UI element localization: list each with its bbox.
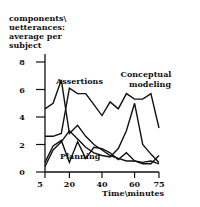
x-tick-label: 5 xyxy=(37,179,43,189)
y-tick-label: 2 xyxy=(19,140,25,150)
y-tick-label: 0 xyxy=(19,167,25,177)
annotation-modeling: modeling xyxy=(129,79,171,89)
line-chart: 02468520406075 Assertions Conceptual mod… xyxy=(0,0,200,207)
series-line xyxy=(45,88,159,136)
x-axis-label: Time\minutes xyxy=(102,188,164,198)
x-tick-label: 20 xyxy=(64,179,76,189)
annotation-assertions: Assertions xyxy=(55,76,103,86)
annotation-conceptual: Conceptual xyxy=(121,69,172,79)
annotation-planning: Planning xyxy=(60,151,101,161)
y-tick-label: 4 xyxy=(19,112,25,122)
y-tick-label: 6 xyxy=(19,85,25,95)
y-tick-label: 8 xyxy=(19,57,25,67)
